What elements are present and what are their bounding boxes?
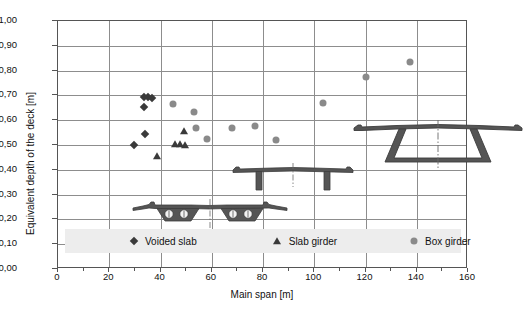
legend-triangle-icon bbox=[273, 237, 282, 246]
data-point bbox=[140, 102, 148, 110]
data-point bbox=[320, 99, 327, 106]
x-tick-mark-major bbox=[467, 268, 468, 272]
legend-entry-slab-girder: Slab girder bbox=[273, 236, 337, 247]
plot-area: Voided slab Slab girder Box girder bbox=[57, 20, 467, 268]
y-axis-ticks: 1,000,900,800,700,600,500,400,300,200,10… bbox=[0, 0, 52, 309]
y-tick-label: 1,00 bbox=[0, 15, 17, 25]
x-tick-label: 40 bbox=[140, 272, 180, 282]
y-tick-label: 0,10 bbox=[0, 238, 17, 248]
legend-diamond-icon bbox=[129, 237, 138, 246]
y-tick-label: 0,40 bbox=[0, 164, 17, 174]
x-tick-label: 160 bbox=[447, 272, 487, 282]
data-point bbox=[229, 124, 236, 131]
y-tick-label: 0,80 bbox=[0, 65, 17, 75]
x-tick-label: 140 bbox=[396, 272, 436, 282]
x-tick-mark-minor bbox=[339, 268, 340, 271]
x-tick-mark-minor bbox=[390, 268, 391, 271]
x-tick-mark-minor bbox=[185, 268, 186, 271]
data-point bbox=[362, 73, 369, 80]
x-tick-mark-major bbox=[57, 268, 58, 272]
legend-label-voided-slab: Voided slab bbox=[145, 236, 197, 247]
x-tick-mark-minor bbox=[134, 268, 135, 271]
data-point bbox=[190, 108, 197, 115]
data-point bbox=[407, 58, 414, 65]
legend-label-slab-girder: Slab girder bbox=[289, 236, 337, 247]
legend-circle-icon bbox=[409, 237, 418, 246]
gridline-horizontal bbox=[58, 71, 466, 72]
data-point bbox=[129, 141, 137, 149]
y-tick-label: 0,30 bbox=[0, 189, 17, 199]
x-tick-mark-minor bbox=[236, 268, 237, 271]
slab-girder-cross-section bbox=[232, 163, 354, 199]
y-tick-label: 0,60 bbox=[0, 114, 17, 124]
x-tick-mark-major bbox=[211, 268, 212, 272]
data-point bbox=[252, 123, 259, 130]
x-tick-mark-major bbox=[313, 268, 314, 272]
x-tick-mark-major bbox=[416, 268, 417, 272]
x-tick-label: 120 bbox=[345, 272, 385, 282]
y-tick-label: 0,50 bbox=[0, 139, 17, 149]
x-tick-mark-major bbox=[108, 268, 109, 272]
y-tick-label: 0,20 bbox=[0, 213, 17, 223]
data-point bbox=[181, 141, 189, 148]
x-tick-label: 0 bbox=[37, 272, 77, 282]
data-point bbox=[180, 128, 188, 135]
gridline-horizontal bbox=[58, 46, 466, 47]
x-tick-label: 80 bbox=[242, 272, 282, 282]
data-point bbox=[272, 137, 279, 144]
x-tick-mark-major bbox=[160, 268, 161, 272]
x-tick-mark-minor bbox=[441, 268, 442, 271]
x-tick-mark-minor bbox=[83, 268, 84, 271]
data-point bbox=[170, 101, 177, 108]
x-tick-mark-major bbox=[365, 268, 366, 272]
gridline-horizontal bbox=[58, 95, 466, 96]
y-tick-label: 0,90 bbox=[0, 40, 17, 50]
legend-label-box-girder: Box girder bbox=[425, 236, 471, 247]
data-point bbox=[193, 124, 200, 131]
box-girder-cross-section bbox=[352, 118, 525, 174]
x-axis-ticks: 020406080100120140160 bbox=[0, 272, 483, 286]
data-point bbox=[153, 152, 161, 159]
legend-entry-box-girder: Box girder bbox=[409, 236, 471, 247]
data-point bbox=[141, 130, 149, 138]
y-tick-label: 0,70 bbox=[0, 89, 17, 99]
x-tick-mark-major bbox=[262, 268, 263, 272]
data-point bbox=[203, 135, 210, 142]
x-tick-label: 100 bbox=[293, 272, 333, 282]
legend-entry-voided-slab: Voided slab bbox=[129, 236, 197, 247]
legend: Voided slab Slab girder Box girder bbox=[65, 229, 461, 253]
x-axis-label: Main span [m] bbox=[57, 289, 467, 300]
x-tick-mark-minor bbox=[288, 268, 289, 271]
x-tick-label: 60 bbox=[191, 272, 231, 282]
x-tick-label: 20 bbox=[88, 272, 128, 282]
